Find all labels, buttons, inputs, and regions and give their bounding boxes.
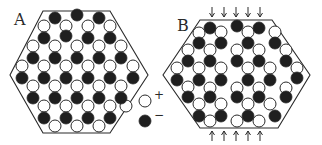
positive-ion-circle: [82, 20, 94, 32]
negative-ion-circle: [71, 92, 83, 104]
negative-ion-circle: [269, 37, 281, 49]
positive-ion-circle: [215, 98, 227, 110]
positive-ion-circle: [204, 115, 216, 127]
negative-ion-circle: [38, 112, 50, 124]
positive-ion-circle: [104, 100, 116, 112]
negative-ion-circle: [193, 110, 205, 122]
positive-ion-circle: [71, 80, 83, 92]
negative-ion-circle: [60, 72, 72, 84]
legend-negative-sign: −: [154, 109, 164, 121]
negative-ion-circle: [38, 32, 50, 44]
negative-ion-circle: [71, 9, 83, 21]
lattice-diagram: [0, 0, 322, 145]
positive-ion-circle: [82, 100, 94, 112]
positive-ion-circle: [280, 44, 292, 56]
positive-ion-circle: [253, 115, 265, 127]
positive-ion-circle: [193, 62, 205, 74]
negative-ion-circle: [253, 22, 265, 34]
positive-ion-circle: [71, 40, 83, 52]
positive-ion-circle: [193, 98, 205, 110]
positive-ion-circle: [269, 26, 281, 38]
legend-positive-circle-icon: [139, 95, 151, 107]
positive-ion-circle: [204, 44, 216, 56]
negative-ion-circle: [16, 72, 28, 84]
panel-label-a: A: [14, 12, 26, 28]
negative-ion-circle: [264, 74, 276, 86]
negative-ion-circle: [104, 72, 116, 84]
negative-ion-circle: [49, 92, 61, 104]
positive-ion-circle: [60, 60, 72, 72]
negative-ion-circle: [82, 112, 94, 124]
positive-ion-circle: [71, 120, 83, 132]
negative-ion-circle: [204, 22, 216, 34]
negative-ion-circle: [93, 52, 105, 64]
positive-ion-circle: [231, 115, 243, 127]
positive-ion-circle: [93, 80, 105, 92]
positive-ion-circle: [27, 40, 39, 52]
negative-ion-circle: [231, 55, 243, 67]
positive-ion-circle: [182, 44, 194, 56]
positive-ion-circle: [60, 100, 72, 112]
negative-ion-circle: [171, 74, 183, 86]
negative-ion-circle: [38, 72, 50, 84]
positive-ion-circle: [38, 60, 50, 72]
negative-ion-circle: [215, 74, 227, 86]
negative-ion-circle: [193, 37, 205, 49]
positive-ion-circle: [115, 40, 127, 52]
negative-ion-circle: [115, 92, 127, 104]
panel-label-b: B: [177, 18, 189, 34]
negative-ion-circle: [104, 32, 116, 44]
positive-ion-circle: [242, 26, 254, 38]
positive-ion-circle: [49, 40, 61, 52]
negative-ion-circle: [280, 55, 292, 67]
positive-ion-circle: [215, 62, 227, 74]
positive-ion-circle: [93, 120, 105, 132]
negative-ion-circle: [60, 30, 72, 42]
negative-ion-circle: [60, 112, 72, 124]
negative-ion-circle: [215, 37, 227, 49]
negative-ion-circle: [253, 55, 265, 67]
negative-ion-circle: [253, 91, 265, 103]
negative-ion-circle: [127, 72, 139, 84]
negative-ion-circle: [291, 72, 303, 84]
negative-ion-circle: [204, 91, 216, 103]
negative-ion-circle: [280, 91, 292, 103]
negative-ion-circle: [231, 91, 243, 103]
positive-ion-circle: [104, 20, 116, 32]
positive-ion-circle: [82, 60, 94, 72]
negative-ion-circle: [231, 20, 243, 32]
positive-ion-circle: [264, 98, 276, 110]
positive-ion-circle: [215, 26, 227, 38]
hexagon-outline-b: [163, 20, 310, 128]
negative-ion-circle: [204, 55, 216, 67]
positive-ion-circle: [127, 60, 139, 72]
negative-ion-circle: [115, 52, 127, 64]
negative-ion-circle: [242, 74, 254, 86]
positive-ion-circle: [27, 80, 39, 92]
negative-ion-circle: [27, 52, 39, 64]
positive-ion-circle: [115, 80, 127, 92]
negative-ion-circle: [104, 112, 116, 124]
positive-ion-circle: [253, 44, 265, 56]
hexagon-outline-a: [10, 11, 148, 133]
positive-ion-circle: [231, 44, 243, 56]
negative-ion-circle: [49, 52, 61, 64]
negative-ion-circle: [82, 72, 94, 84]
positive-ion-circle: [242, 98, 254, 110]
negative-ion-circle: [193, 74, 205, 86]
negative-ion-circle: [82, 32, 94, 44]
positive-ion-circle: [264, 62, 276, 74]
positive-ion-circle: [104, 60, 116, 72]
positive-ion-circle: [38, 100, 50, 112]
negative-ion-circle: [27, 92, 39, 104]
legend-positive-sign: +: [154, 89, 164, 101]
negative-ion-circle: [182, 55, 194, 67]
positive-ion-circle: [49, 120, 61, 132]
figure: A B + −: [0, 0, 322, 145]
positive-ion-circle: [16, 60, 28, 72]
negative-ion-circle: [93, 12, 105, 24]
positive-ion-circle: [171, 62, 183, 74]
negative-ion-circle: [71, 52, 83, 64]
legend-negative-circle-icon: [139, 115, 151, 127]
positive-ion-circle: [242, 62, 254, 74]
